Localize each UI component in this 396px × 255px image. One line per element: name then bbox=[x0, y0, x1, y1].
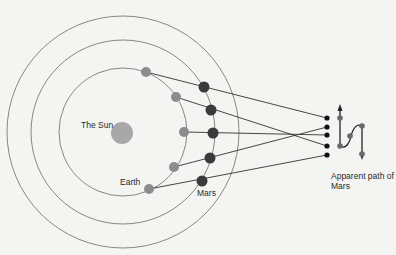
projected-points bbox=[324, 115, 329, 157]
earth-icon bbox=[171, 92, 181, 102]
retrograde-motion-diagram bbox=[0, 0, 396, 255]
earth-icon bbox=[179, 127, 189, 137]
mars-icon bbox=[206, 105, 217, 116]
sightline-2 bbox=[176, 97, 327, 146]
apparent-path-label-line2: Mars bbox=[331, 181, 350, 191]
earth-icon bbox=[169, 162, 179, 172]
sun-icon bbox=[111, 122, 133, 144]
mars-icon bbox=[199, 82, 210, 93]
apparent-path bbox=[337, 104, 365, 160]
apparent-path-label-line1: Apparent path of bbox=[331, 171, 394, 181]
mars-icon bbox=[197, 176, 208, 187]
earth-path bbox=[141, 67, 189, 194]
sightline-5 bbox=[149, 155, 327, 189]
mars-icon bbox=[205, 153, 216, 164]
earth-icon bbox=[141, 67, 151, 77]
mars-label: Mars bbox=[197, 188, 216, 198]
arrow-up-icon bbox=[338, 104, 343, 111]
sun-label: The Sun bbox=[81, 120, 113, 130]
earth-icon bbox=[144, 184, 154, 194]
earth-label: Earth bbox=[120, 177, 140, 187]
mars-icon bbox=[208, 128, 219, 139]
mars-path bbox=[197, 82, 219, 187]
